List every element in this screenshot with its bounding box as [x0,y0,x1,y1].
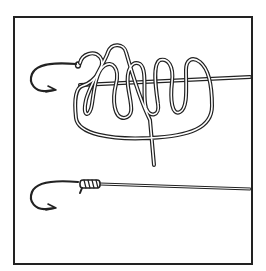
loose-knot-coils [75,45,250,165]
hook-icon-top [31,62,81,92]
knot-illustration [0,0,266,271]
finished-knot [80,180,250,193]
hook-icon-bottom [31,181,78,210]
